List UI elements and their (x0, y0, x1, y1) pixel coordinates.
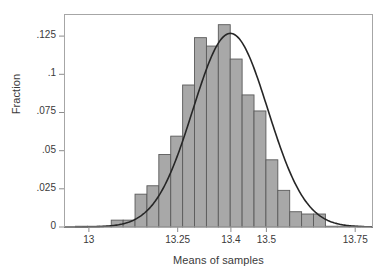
histogram-bar (242, 95, 254, 227)
histogram-bars (76, 25, 362, 227)
histogram-bar (218, 25, 230, 227)
chart-figure: Fraction Means of samples 0.025.05.075.1… (0, 0, 391, 280)
histogram-bar (266, 160, 278, 227)
histogram-bar (171, 136, 183, 227)
histogram-bar (206, 46, 218, 227)
histogram-bar (135, 194, 147, 227)
histogram-bar (278, 190, 290, 227)
histogram-bar (302, 214, 314, 227)
histogram-bar (290, 212, 302, 227)
histogram-bar (183, 85, 195, 227)
histogram-bar (147, 186, 159, 227)
histogram-bar (195, 38, 207, 227)
histogram-bar (230, 59, 242, 227)
histogram-bar (254, 111, 266, 227)
plot-area (0, 0, 391, 280)
histogram-bar (159, 154, 171, 227)
